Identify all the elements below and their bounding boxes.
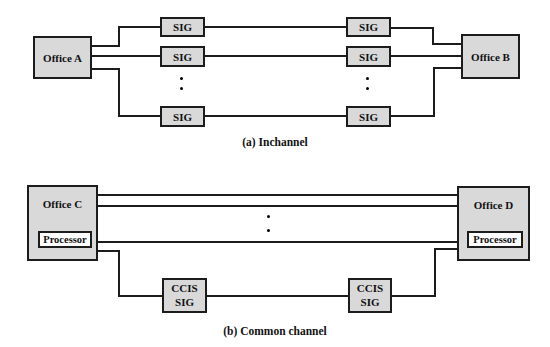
ellipsis-dot xyxy=(267,229,270,232)
ccis-sig-box-left: CCIS SIG xyxy=(162,278,207,313)
connector-line xyxy=(92,55,160,57)
processor-label: Processor xyxy=(473,234,517,245)
connector-line xyxy=(207,295,348,297)
office-b-box: Office B xyxy=(461,34,520,79)
processor-box-right: Processor xyxy=(467,231,523,248)
connector-line xyxy=(432,43,461,45)
connector-line xyxy=(118,26,120,47)
office-c-label: Office C xyxy=(43,198,82,210)
office-d-label: Office D xyxy=(474,199,513,211)
connector-line xyxy=(92,45,120,47)
trunk-line xyxy=(205,55,346,57)
signaling-diagram: Office A Office B SIG SIG SIG SIG SIG SI… xyxy=(0,0,550,347)
ccis-label-line2: SIG xyxy=(175,296,194,310)
ccis-label-line2: SIG xyxy=(361,296,380,310)
sig-label: SIG xyxy=(173,21,192,33)
connector-line xyxy=(118,26,160,28)
ccis-label-line1: CCIS xyxy=(357,282,383,296)
connector-line xyxy=(118,115,160,117)
connector-line xyxy=(433,67,461,69)
connector-line xyxy=(118,250,120,297)
trunk-line xyxy=(98,241,457,243)
caption-common-channel: (b) Common channel xyxy=(0,325,550,337)
office-a-box: Office A xyxy=(33,36,92,79)
sig-box-right-2: SIG xyxy=(346,46,391,67)
processor-label: Processor xyxy=(43,234,87,245)
connector-line xyxy=(118,295,162,297)
connector-line xyxy=(92,68,120,70)
sig-label: SIG xyxy=(359,51,378,63)
sig-label: SIG xyxy=(173,51,192,63)
ccis-sig-box-right: CCIS SIG xyxy=(348,278,392,313)
sig-box-right-3: SIG xyxy=(346,106,391,127)
trunk-line xyxy=(98,205,457,207)
sig-box-right-1: SIG xyxy=(346,17,391,37)
sig-box-left-1: SIG xyxy=(160,17,205,37)
connector-line xyxy=(118,68,120,116)
trunk-line xyxy=(98,194,457,196)
caption-inchannel: (a) Inchannel xyxy=(0,136,550,148)
sig-label: SIG xyxy=(359,111,378,123)
connector-line xyxy=(434,248,436,297)
ellipsis-dot xyxy=(366,87,369,90)
connector-line xyxy=(433,67,435,117)
ellipsis-dot xyxy=(180,87,183,90)
sig-label: SIG xyxy=(173,111,192,123)
trunk-line xyxy=(205,26,346,28)
processor-box-left: Processor xyxy=(38,231,92,248)
ellipsis-dot xyxy=(366,77,369,80)
sig-label: SIG xyxy=(359,21,378,33)
office-d-box: Office D xyxy=(457,186,530,261)
office-b-label: Office B xyxy=(471,51,510,63)
sig-box-left-3: SIG xyxy=(160,106,205,127)
ellipsis-dot xyxy=(267,215,270,218)
trunk-line xyxy=(205,115,346,117)
office-a-label: Office A xyxy=(43,52,82,64)
sig-box-left-2: SIG xyxy=(160,46,205,67)
ccis-label-line1: CCIS xyxy=(171,282,197,296)
connector-line xyxy=(391,115,435,117)
connector-line xyxy=(434,248,457,250)
ellipsis-dot xyxy=(180,77,183,80)
connector-line xyxy=(392,295,436,297)
office-c-box: Office C xyxy=(27,185,98,261)
connector-line xyxy=(391,27,434,29)
connector-line xyxy=(98,250,120,252)
connector-line xyxy=(391,55,461,57)
